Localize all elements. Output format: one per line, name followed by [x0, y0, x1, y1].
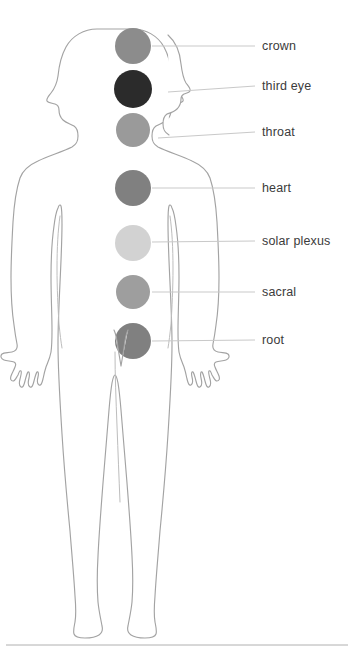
chakra-label-root: root — [262, 334, 284, 347]
chakra-label-throat: throat — [262, 126, 295, 139]
chakra-label-solar-plexus: solar plexus — [262, 235, 331, 248]
chakra-labels-layer: crown third eye throat heart solar plexu… — [0, 0, 351, 662]
chakra-label-sacral: sacral — [262, 286, 296, 299]
chakra-label-third-eye: third eye — [262, 80, 311, 93]
chakra-label-heart: heart — [262, 182, 291, 195]
chakra-label-crown: crown — [262, 40, 296, 53]
chakra-body-diagram: crown third eye throat heart solar plexu… — [0, 0, 351, 662]
